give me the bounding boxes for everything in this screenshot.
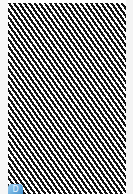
app-icon[interactable]: D (8, 184, 23, 194)
striped-image-canvas (8, 3, 126, 194)
app-icon-glyph: D (12, 185, 18, 194)
left-margin (0, 0, 8, 194)
right-margin (126, 0, 133, 194)
